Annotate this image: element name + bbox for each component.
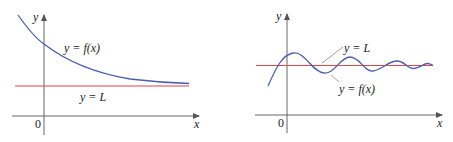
right-origin-label: 0 xyxy=(278,116,284,130)
left-origin-label: 0 xyxy=(35,117,41,131)
left-curve-label: y = f(x) xyxy=(63,41,100,55)
right-x-axis-label: x xyxy=(436,116,443,130)
right-graph: y x 0 y = L y = f(x) xyxy=(255,9,443,133)
left-graph: y x 0 y = f(x) y = L xyxy=(12,10,200,135)
left-line-label: y = L xyxy=(79,90,106,104)
right-y-axis-label: y xyxy=(275,9,282,23)
right-curve-label: y = f(x) xyxy=(338,82,375,96)
right-line-label-pointer xyxy=(322,47,343,63)
figure: y x 0 y = f(x) y = L y x 0 y = L y = f(x… xyxy=(0,0,453,142)
left-y-axis-label: y xyxy=(32,10,39,24)
right-line-label: y = L xyxy=(343,41,370,55)
left-x-axis-label: x xyxy=(193,117,200,131)
right-curve-label-pointer xyxy=(331,75,339,82)
